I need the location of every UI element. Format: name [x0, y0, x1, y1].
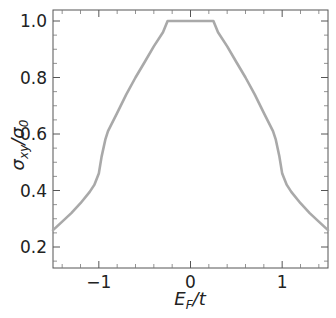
y-tick-label: 0.2 [20, 237, 47, 257]
x-tick-label: −1 [86, 272, 111, 292]
y-tick-label: 0.4 [20, 181, 47, 201]
plot-frame [53, 10, 328, 268]
y-axis-label: σxy/σ0 [7, 119, 31, 170]
data-line [53, 21, 328, 230]
axis-ticks [53, 10, 328, 268]
chart: −1010.20.40.60.81.0 EF/t σxy/σ0 [0, 0, 336, 318]
x-tick-label: 1 [277, 272, 288, 292]
plot-border [53, 10, 328, 268]
y-tick-label: 1.0 [20, 11, 47, 31]
y-tick-label: 0.8 [20, 68, 47, 88]
tick-labels: −1010.20.40.60.81.0 [20, 11, 288, 292]
